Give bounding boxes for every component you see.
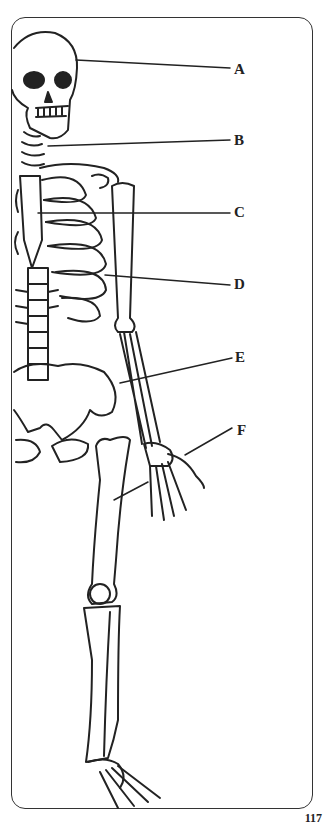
leader-line-a [76, 60, 230, 68]
skull [12, 32, 77, 138]
leader-line-f [185, 428, 232, 455]
skeleton-drawing [0, 0, 332, 830]
hand [144, 443, 204, 520]
humerus [112, 183, 135, 332]
label-a: A [234, 62, 245, 77]
leader-line-b [48, 140, 230, 146]
label-f: F [237, 423, 246, 438]
leader-line-e-femur [114, 482, 148, 500]
cervical-spine [22, 132, 44, 166]
patella [90, 584, 110, 604]
page-number: 117 [305, 811, 322, 826]
pelvis [14, 364, 116, 462]
leader-line-d [105, 275, 230, 285]
label-b: B [234, 133, 244, 148]
leader-lines [38, 60, 232, 500]
label-c: C [234, 205, 245, 220]
label-d: D [234, 277, 245, 292]
forearm-radius-ulna [120, 332, 160, 448]
lower-leg-tibia-fibula [84, 606, 120, 762]
femur [88, 437, 130, 604]
foot [88, 759, 160, 808]
label-e: E [235, 350, 245, 365]
sternum [20, 176, 42, 268]
